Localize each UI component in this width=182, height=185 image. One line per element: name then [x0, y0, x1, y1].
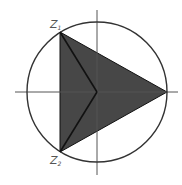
- z1-label: Z1: [49, 18, 61, 31]
- diagram-canvas: Z1 Z2: [0, 0, 182, 185]
- z2-label: Z2: [49, 154, 62, 167]
